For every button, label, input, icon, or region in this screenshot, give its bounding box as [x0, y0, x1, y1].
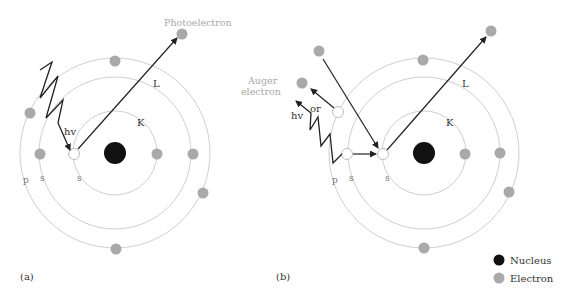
electron — [25, 108, 36, 119]
electron — [35, 149, 46, 160]
panel-label-a: (a) — [20, 271, 34, 282]
subshell-label-p: p — [332, 175, 338, 185]
electron — [418, 55, 429, 66]
subshell-label-s-inner: s — [385, 173, 390, 183]
panel-b: Auger electron or hv L K p s s (b) — [241, 26, 519, 283]
atom-diagram: hv Photoelectron L K p s s (a) — [0, 0, 567, 302]
electron — [419, 243, 430, 254]
electron — [111, 244, 122, 255]
auger-label-line2: electron — [241, 86, 281, 97]
l-p-vacancy — [333, 107, 344, 118]
k-vacancy — [69, 149, 80, 160]
electron — [198, 188, 209, 199]
shell-label-l: L — [462, 78, 469, 89]
k-vacancy — [378, 149, 389, 160]
panel-a: hv Photoelectron L K p s s (a) — [20, 17, 232, 282]
photoelectron — [177, 29, 188, 40]
photon-label: hv — [64, 126, 76, 137]
electron — [188, 149, 199, 160]
shell-label-k: K — [137, 117, 145, 128]
incoming-electron — [314, 46, 325, 57]
legend-nucleus-label: Nucleus — [510, 255, 551, 266]
legend-electron-label: Electron — [510, 273, 554, 284]
electron — [495, 148, 506, 159]
shell-label-k: K — [446, 117, 454, 128]
shell-label-l: L — [153, 78, 160, 89]
photoelectron — [486, 26, 497, 37]
legend-electron-swatch — [494, 273, 505, 284]
electron — [110, 56, 121, 67]
or-label: or — [310, 103, 321, 114]
photoelectron-label: Photoelectron — [164, 17, 232, 28]
electron — [152, 149, 163, 160]
panel-label-b: (b) — [276, 271, 290, 282]
auger-label-line1: Auger — [247, 75, 278, 86]
legend: Nucleus Electron — [494, 255, 554, 285]
nucleus — [413, 142, 435, 164]
electron — [460, 149, 471, 160]
auger-electron — [297, 78, 308, 89]
subshell-label-s-outer: s — [40, 173, 45, 183]
photon-label: hv — [291, 110, 303, 121]
electron — [504, 187, 515, 198]
legend-nucleus-swatch — [494, 255, 505, 266]
subshell-label-s-outer: s — [349, 173, 354, 183]
subshell-label-p: p — [23, 175, 29, 185]
nucleus — [104, 142, 126, 164]
subshell-label-s-inner: s — [77, 173, 82, 183]
l-s-vacancy — [342, 149, 353, 160]
